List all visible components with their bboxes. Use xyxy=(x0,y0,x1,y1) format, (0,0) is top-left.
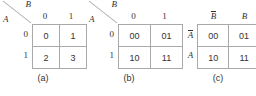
panel-a-column-header-1: 1 xyxy=(58,12,84,24)
panel-a: B A 0 1 0 1 0 1 2 3 xyxy=(2,0,87,69)
panel-a-grid: 0 1 2 3 xyxy=(32,24,87,69)
panel-a-diagonal-corner: B A xyxy=(2,0,32,24)
panel-b: B A 0 1 0 1 00 01 10 11 xyxy=(88,0,183,69)
panel-a-column-header-0: 0 xyxy=(32,12,58,24)
panel-c-header-row: B B xyxy=(176,0,256,24)
panel-a-cell-0-0: 0 xyxy=(33,25,60,47)
panel-b-row-header-0: 0 xyxy=(88,24,118,45)
panel-b-column-header-0: 0 xyxy=(118,12,149,24)
panel-b-diagonal-upper-label: B xyxy=(112,0,118,9)
panel-a-cell-1-1: 3 xyxy=(60,47,87,69)
panel-b-row-labels: 0 1 xyxy=(88,24,118,69)
panel-b-cell-0-0: 00 xyxy=(119,25,151,47)
panel-c-column-header-0: B xyxy=(198,11,229,24)
panel-c-row-labels: A A xyxy=(176,24,197,69)
panel-a-row-header-0: 0 xyxy=(2,24,32,45)
panel-c-cell-0-0: 00 xyxy=(198,25,229,47)
table-row: 0 1 xyxy=(33,25,87,47)
panel-b-header-row: B A 0 1 xyxy=(88,0,183,24)
table-row: 2 3 xyxy=(33,47,87,69)
panel-c-grid: 00 01 10 11 xyxy=(197,24,256,69)
table-row: 10 11 xyxy=(198,47,256,69)
b-label: B xyxy=(242,11,248,21)
panel-c-body: A A 00 01 10 11 xyxy=(176,24,256,69)
panel-a-row-header-1: 1 xyxy=(2,45,32,66)
panel-b-body: 0 1 00 01 10 11 xyxy=(88,24,183,69)
table-row: 10 11 xyxy=(119,47,183,69)
panel-c-row-header-1: A xyxy=(176,45,197,66)
panel-a-cell-1-0: 2 xyxy=(33,47,60,69)
panel-a-row-labels: 0 1 xyxy=(2,24,32,69)
karnaugh-map-notation-figure: B A 0 1 0 1 0 1 2 3 xyxy=(0,0,256,96)
panel-a-diagonal-upper-label: B xyxy=(26,0,32,9)
panel-b-diagonal-lower-label: A xyxy=(89,15,95,24)
panel-c-caption: (c) xyxy=(176,74,256,83)
b-complement-label: B xyxy=(211,11,217,21)
table-row: 00 01 xyxy=(119,25,183,47)
panel-b-cell-1-0: 10 xyxy=(119,47,151,69)
panel-a-diagonal-lower-label: A xyxy=(3,15,9,24)
panel-c-cell-0-1: 01 xyxy=(229,25,256,47)
a-complement-label: A xyxy=(188,30,194,40)
panel-b-grid: 00 01 10 11 xyxy=(118,24,183,69)
panel-b-row-header-1: 1 xyxy=(88,45,118,66)
panel-b-diagonal-corner: B A xyxy=(88,0,118,24)
panel-c-row-header-0: A xyxy=(176,24,197,45)
panel-b-caption: (b) xyxy=(88,74,170,83)
panel-a-caption: (a) xyxy=(2,74,84,83)
panel-c-corner-spacer xyxy=(176,0,198,24)
panel-a-body: 0 1 0 1 2 3 xyxy=(2,24,87,69)
panel-c-cell-1-1: 11 xyxy=(229,47,256,69)
panel-c: B B A A 00 01 xyxy=(176,0,256,69)
panel-c-column-header-1: B xyxy=(229,12,256,24)
table-row: 00 01 xyxy=(198,25,256,47)
panel-a-header-row: B A 0 1 xyxy=(2,0,87,24)
a-label: A xyxy=(188,51,194,60)
panel-a-cell-0-1: 1 xyxy=(60,25,87,47)
panel-c-cell-1-0: 10 xyxy=(198,47,229,69)
